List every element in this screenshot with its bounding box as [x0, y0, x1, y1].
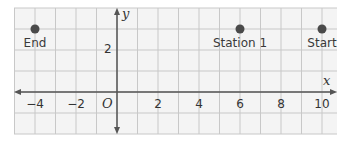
x-tick-label: 8: [277, 97, 285, 111]
y-axis-label: y: [122, 6, 129, 21]
x-tick-label: 4: [195, 97, 203, 111]
x-tick-label: −2: [67, 97, 85, 111]
point-label: Station 1: [213, 36, 267, 50]
coordinate-plane: EndStation 1Start−4−22468102Oxy: [0, 0, 352, 143]
point-label: Start: [307, 36, 336, 50]
x-tick-label: 6: [236, 97, 244, 111]
x-tick-label: 2: [154, 97, 162, 111]
data-point-dot: [31, 25, 40, 34]
origin-label: O: [102, 96, 113, 111]
x-axis-label: x: [323, 73, 330, 88]
x-tick-label: −4: [26, 97, 44, 111]
y-tick-label: 2: [104, 42, 112, 56]
data-point-dot: [236, 25, 245, 34]
point-label: End: [24, 36, 47, 50]
grid-svg: [0, 0, 352, 143]
x-tick-label: 10: [314, 97, 329, 111]
data-point-dot: [318, 25, 327, 34]
